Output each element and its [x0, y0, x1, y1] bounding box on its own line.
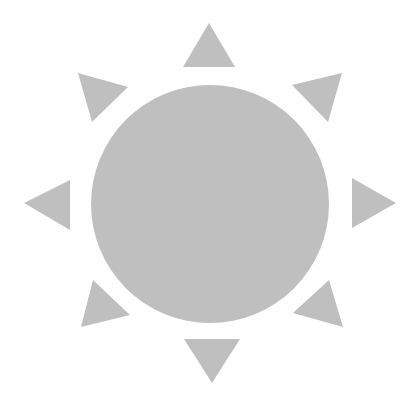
- sun-disc: [91, 85, 329, 323]
- ray-right-icon: [352, 178, 396, 228]
- ray-bottom-icon: [184, 339, 240, 383]
- ray-top-icon: [183, 23, 235, 67]
- ray-top-left-icon: [78, 73, 128, 122]
- ray-bottom-left-icon: [81, 280, 130, 327]
- sun-icon: [0, 0, 418, 406]
- ray-top-right-icon: [292, 73, 342, 122]
- ray-bottom-right-icon: [293, 280, 343, 327]
- sun-icon-canvas: [0, 0, 418, 406]
- ray-left-icon: [24, 180, 70, 230]
